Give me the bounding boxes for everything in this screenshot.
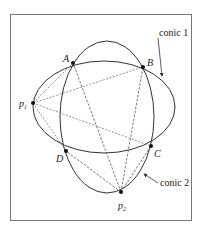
label-C: C	[154, 148, 161, 159]
point-D	[64, 149, 68, 153]
point-C	[149, 144, 153, 148]
point-p2	[119, 190, 123, 194]
label-p2-sub: 2	[123, 206, 126, 212]
diagram-frame	[11, 15, 192, 221]
point-B	[141, 65, 145, 69]
label-A: A	[62, 53, 70, 64]
label-D: D	[55, 153, 64, 164]
conic-2-label: conic 2	[160, 177, 189, 188]
label-p2: p2	[117, 200, 126, 212]
conics-diagram: A B C D p1 p2 conic 1 conic 2	[0, 0, 203, 228]
label-B: B	[147, 57, 153, 68]
p2-chords	[66, 63, 151, 192]
label-p1-sub: 1	[24, 104, 27, 110]
point-p1	[31, 101, 35, 105]
conic-2-arrow	[144, 174, 158, 183]
point-A	[71, 61, 75, 65]
label-p1: p1	[18, 98, 27, 110]
conic-1-label: conic 1	[159, 27, 188, 38]
conic-1-arrow	[158, 38, 162, 76]
